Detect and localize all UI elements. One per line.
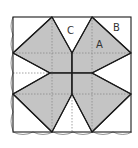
label-b: B: [113, 22, 120, 33]
quilt-block-figure: A B C: [0, 0, 138, 148]
label-a: A: [96, 39, 103, 50]
label-c: C: [67, 25, 74, 36]
